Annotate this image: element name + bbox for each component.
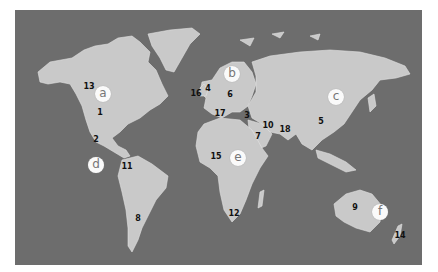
- japan-shape: [368, 94, 376, 112]
- greenland-shape: [148, 28, 200, 72]
- madagascar-shape: [258, 190, 264, 208]
- map-label-17: 17: [214, 110, 225, 118]
- map-label-16: 16: [190, 90, 201, 98]
- world-map: a b c d e f 1 2 3 4 5 6 7 8 9 10 11 12 1…: [15, 10, 422, 265]
- map-label-18: 18: [279, 126, 290, 134]
- map-label-13: 13: [83, 83, 94, 91]
- region-marker-c[interactable]: c: [328, 89, 344, 105]
- map-label-5: 5: [318, 118, 324, 126]
- region-marker-f[interactable]: f: [372, 204, 388, 220]
- map-label-12: 12: [228, 210, 239, 218]
- map-label-4: 4: [205, 85, 211, 93]
- region-marker-b[interactable]: b: [224, 66, 240, 82]
- arctic-islands-shape: [240, 32, 320, 46]
- map-label-3: 3: [244, 112, 250, 120]
- map-label-11: 11: [121, 163, 132, 171]
- region-marker-e[interactable]: e: [230, 150, 246, 166]
- world-landmass: [15, 10, 422, 265]
- map-label-15: 15: [210, 153, 221, 161]
- region-marker-d[interactable]: d: [88, 157, 104, 173]
- southeast-asia-shape: [316, 150, 356, 172]
- map-label-1: 1: [97, 109, 103, 117]
- map-label-2: 2: [93, 136, 99, 144]
- map-label-7: 7: [255, 133, 261, 141]
- map-label-10: 10: [262, 122, 273, 130]
- map-label-6: 6: [227, 91, 233, 99]
- map-label-8: 8: [135, 215, 141, 223]
- region-marker-a[interactable]: a: [95, 86, 111, 102]
- map-label-14: 14: [394, 232, 405, 240]
- map-label-9: 9: [352, 204, 358, 212]
